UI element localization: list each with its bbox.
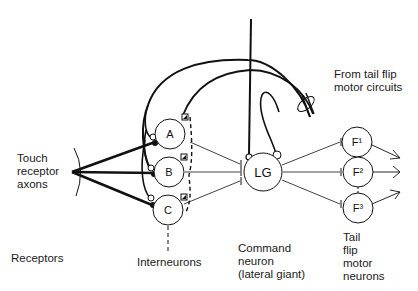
label-line: receptor [17,165,59,178]
node-label-f1: F¹ [352,136,363,148]
motor-neuron-f2: F² [343,157,373,187]
motor-neuron-f3: F³ [343,193,373,223]
interneurons-label: Interneurons [137,256,202,269]
from-tail-flip-label: From tail flip motor circuits [334,68,402,94]
node-label-f2: F² [353,166,364,178]
label-line: axons [17,178,59,191]
motor-output-arrows [372,145,400,204]
label-line: (lateral giant) [238,268,305,281]
label-line: neuron [238,255,305,268]
label-line: neurons [343,270,385,283]
node-label-a: A [166,128,174,140]
node-label-c: C [164,204,172,216]
interneuron-b: B [154,157,184,187]
label-line: Tail [343,231,385,244]
label-line: Touch [17,152,59,165]
touch-receptor-axons-label: Touch receptor axons [17,152,59,191]
descending-input-line [249,19,251,154]
label-line: Command [238,242,305,255]
interneuron-to-lg-connections [184,142,241,204]
interneuron-c: C [153,195,183,225]
lateral-giant-neuron: LG [244,153,282,191]
tail-flip-motor-neurons-label: Tail flip motor neurons [343,231,385,283]
motor-neuron-f1: F¹ [342,127,372,157]
command-neuron-label: Command neuron (lateral giant) [238,242,305,281]
label-line: motor circuits [334,81,402,94]
interneuron-a: A [155,119,185,149]
receptors-label: Receptors [11,252,63,265]
label-line: flip [343,244,385,257]
node-label-lg: LG [254,165,271,180]
lg-to-motor-connections [282,138,341,208]
node-label-f3: F³ [353,202,364,214]
label-line: motor [343,257,385,270]
label-line: From tail flip [334,68,402,81]
node-label-b: B [165,166,172,178]
